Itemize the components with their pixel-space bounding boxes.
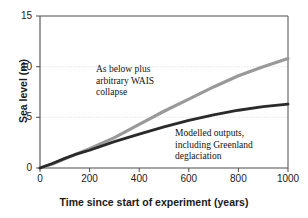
y-axis-title: Sea level (m) bbox=[17, 21, 29, 161]
chart-figure: 15 10 5 0 0 200 400 600 800 1000 Time si… bbox=[0, 0, 308, 218]
annotation-wais-line-2: arbitrary WAIS bbox=[96, 76, 154, 88]
x-axis-title: Time since start of experiment (years) bbox=[0, 196, 308, 208]
xtick-label-200: 200 bbox=[70, 173, 110, 184]
annotation-modelled-line-1: Modelled outputs, bbox=[175, 128, 253, 140]
ytick-label-0: 0 bbox=[2, 162, 32, 173]
xtick-label-400: 400 bbox=[119, 173, 159, 184]
annotation-modelled-line-3: deglaciation bbox=[175, 151, 253, 163]
xtick-label-1000: 1000 bbox=[268, 173, 308, 184]
xtick-label-600: 600 bbox=[169, 173, 209, 184]
annotation-modelled-line-2: including Greenland bbox=[175, 140, 253, 152]
annotation-wais-line-3: collapse bbox=[96, 87, 154, 99]
ytick-label-15: 15 bbox=[2, 10, 32, 21]
annotation-wais-line-1: As below plus bbox=[96, 64, 154, 76]
xtick-label-0: 0 bbox=[20, 173, 60, 184]
xtick-label-800: 800 bbox=[218, 173, 258, 184]
chart-plot-area bbox=[0, 0, 308, 218]
annotation-wais-collapse: As below plus arbitrary WAIS collapse bbox=[96, 64, 154, 99]
annotation-modelled-outputs: Modelled outputs, including Greenland de… bbox=[175, 128, 253, 163]
